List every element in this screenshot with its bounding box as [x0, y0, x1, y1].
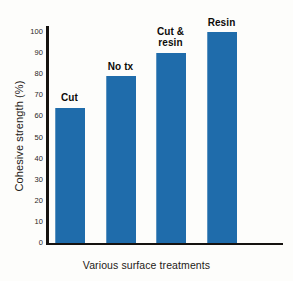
bar-category-label: Resin [192, 17, 252, 28]
bar [156, 53, 186, 243]
bar [55, 108, 85, 243]
bar-category-label: Cut & resin [141, 26, 201, 48]
bars-layer: CutNo txCut & resinResin [0, 0, 293, 243]
bar [207, 32, 237, 243]
bar-category-label: Cut [40, 92, 100, 103]
bar-category-label: No tx [91, 61, 151, 72]
x-axis-title: Various surface treatments [0, 259, 293, 271]
bar [106, 76, 136, 243]
bar-chart: Cohesive strength (%) 010203040506070809… [0, 0, 293, 281]
